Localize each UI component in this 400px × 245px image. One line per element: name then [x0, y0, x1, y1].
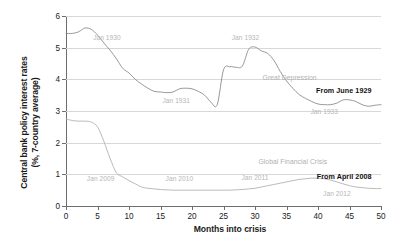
- interest-rate-line-chart: Central bank policy interest rates (%, 7…: [0, 0, 400, 245]
- y-tick-label-5: 5: [55, 43, 60, 52]
- x-tick-mark-15: [161, 206, 162, 210]
- x-tick-mark-30: [255, 206, 256, 210]
- y-tick-label-6: 6: [55, 12, 60, 21]
- x-tick-label-45: 45: [345, 212, 354, 221]
- y-axis-title-line-2: (%, 7-country average): [30, 78, 41, 168]
- annotation-jan-2011: Jan 2011: [241, 173, 268, 180]
- x-tick-label-20: 20: [187, 212, 196, 221]
- annotation-jan-1933: Jan 1933: [311, 108, 339, 115]
- x-tick-label-30: 30: [250, 212, 259, 221]
- x-tick-label-0: 0: [64, 212, 69, 221]
- annotation-jan-2010: Jan 2010: [166, 175, 194, 182]
- x-tick-mark-10: [129, 206, 130, 210]
- x-tick-mark-0: [66, 206, 67, 210]
- y-axis-title-line-1: Central bank policy interest rates: [19, 56, 30, 188]
- x-tick-mark-45: [350, 206, 351, 210]
- x-tick-label-50: 50: [376, 212, 385, 221]
- annotation-jan-2012: Jan 2012: [323, 189, 351, 196]
- x-tick-label-25: 25: [219, 212, 228, 221]
- x-tick-mark-50: [381, 206, 382, 210]
- y-tick-label-2: 2: [55, 138, 60, 147]
- x-tick-mark-20: [192, 206, 193, 210]
- y-tick-label-1: 1: [55, 170, 60, 179]
- annotation-global-financial-crisis: Global Financial Crisis: [258, 158, 327, 165]
- x-tick-label-15: 15: [156, 212, 165, 221]
- annotation-jan-2009: Jan 2009: [87, 175, 115, 182]
- x-tick-label-35: 35: [282, 212, 291, 221]
- x-tick-label-5: 5: [95, 212, 100, 221]
- y-tick-label-3: 3: [55, 107, 60, 116]
- annotation-jan-1930: Jan 1930: [93, 33, 121, 40]
- y-axis-title: Central bank policy interest rates (%, 7…: [0, 0, 60, 245]
- annotation-jan-1931: Jan 1931: [162, 96, 190, 103]
- plot-area: 0123456 05101520253035404550 Jan 1930Jan…: [66, 16, 381, 206]
- x-tick-mark-5: [98, 206, 99, 210]
- annotation-from-april-2008: From April 2008: [317, 171, 372, 180]
- annotation-great-depression: Great Depression: [263, 73, 317, 80]
- x-tick-mark-25: [224, 206, 225, 210]
- x-tick-label-40: 40: [313, 212, 322, 221]
- annotation-from-june-1929: From June 1929: [316, 86, 371, 95]
- y-tick-label-0: 0: [55, 202, 60, 211]
- annotation-jan-1932: Jan 1932: [232, 33, 260, 40]
- y-tick-label-4: 4: [55, 75, 60, 84]
- x-tick-mark-35: [287, 206, 288, 210]
- x-tick-mark-40: [318, 206, 319, 210]
- x-axis-title: Months into crisis: [60, 224, 400, 234]
- x-tick-label-10: 10: [124, 212, 133, 221]
